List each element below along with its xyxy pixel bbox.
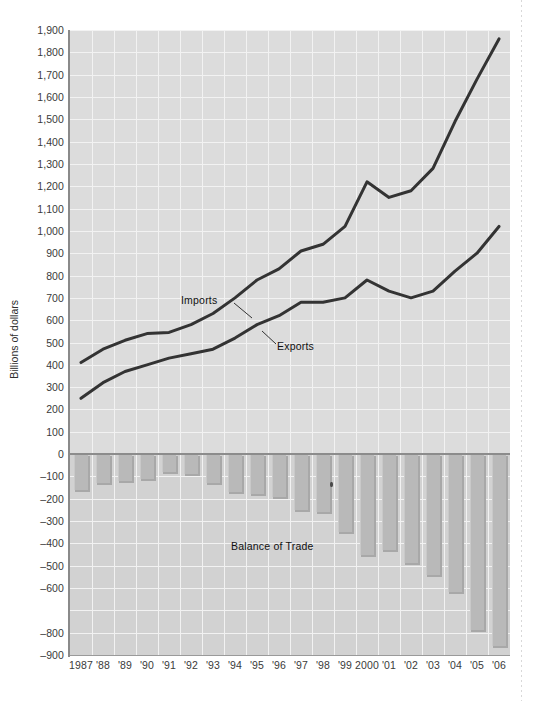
- y-tick-label: 1,300: [0, 158, 64, 170]
- x-tick-label: '97: [294, 659, 308, 671]
- y-tick-label: –400: [0, 537, 64, 549]
- exports-line: [81, 226, 499, 398]
- y-tick-label: 200: [0, 403, 64, 415]
- x-tick-label: '01: [382, 659, 396, 671]
- x-tick-label: '03: [426, 659, 440, 671]
- x-tick-label: '06: [492, 659, 506, 671]
- x-tick-label: '89: [118, 659, 132, 671]
- x-tick-label: '02: [404, 659, 418, 671]
- y-tick-label: –300: [0, 515, 64, 527]
- balance-of-trade-label: Balance of Trade: [231, 540, 314, 552]
- trade-chart-figure: 1,9001,8001,7001,6001,5001,4001,3001,200…: [0, 0, 536, 701]
- y-tick-label: –800: [0, 627, 64, 639]
- y-tick-label: 100: [0, 426, 64, 438]
- imports-series-label: Imports: [181, 294, 217, 306]
- y-tick-label: 1,200: [0, 180, 64, 192]
- scan-speck: [330, 482, 333, 487]
- y-tick-label: 1,600: [0, 91, 64, 103]
- y-tick-label: 1,800: [0, 46, 64, 58]
- imports-line: [81, 39, 499, 363]
- y-tick-label: 800: [0, 270, 64, 282]
- y-tick-label: –100: [0, 470, 64, 482]
- x-axis-line: [70, 655, 510, 656]
- x-tick-label: '98: [316, 659, 330, 671]
- x-tick-label: '95: [250, 659, 264, 671]
- x-tick-label: '92: [184, 659, 198, 671]
- y-tick-label: –500: [0, 560, 64, 572]
- y-axis-line: [68, 30, 70, 657]
- y-tick-label: 1,000: [0, 225, 64, 237]
- x-tick-label: '96: [272, 659, 286, 671]
- exports-leader: [262, 331, 276, 344]
- x-tick-label: '94: [228, 659, 242, 671]
- y-tick-label: 1,500: [0, 113, 64, 125]
- y-tick-label: 300: [0, 381, 64, 393]
- y-tick-label: 1,900: [0, 24, 64, 36]
- page-edge-rule: [521, 0, 522, 701]
- imports-leader: [234, 303, 252, 318]
- y-tick-label: 900: [0, 247, 64, 259]
- x-tick-label: '99: [338, 659, 352, 671]
- x-tick-label: 2000: [355, 659, 379, 671]
- y-tick-label: 1,100: [0, 203, 64, 215]
- y-axis-title: Billions of dollars: [8, 300, 20, 379]
- x-tick-label: '93: [206, 659, 220, 671]
- x-tick-label: '90: [140, 659, 154, 671]
- x-tick-label: '05: [470, 659, 484, 671]
- y-tick-label: 1,400: [0, 136, 64, 148]
- y-tick-label: –900: [0, 649, 64, 661]
- x-tick-label: '88: [96, 659, 110, 671]
- x-tick-label: 1987: [69, 659, 93, 671]
- x-tick-label: '91: [162, 659, 176, 671]
- x-tick-label: '04: [448, 659, 462, 671]
- y-tick-label: –200: [0, 493, 64, 505]
- y-tick-label: –600: [0, 582, 64, 594]
- y-tick-label: 0: [0, 448, 64, 460]
- exports-series-label: Exports: [277, 340, 314, 352]
- y-tick-label: 1,700: [0, 69, 64, 81]
